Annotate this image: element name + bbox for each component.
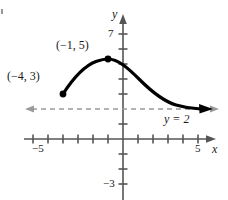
y-axis-arrow-up-icon — [119, 14, 127, 24]
x-axis — [24, 135, 216, 144]
x-axis-label: x — [212, 143, 217, 155]
y-axis-label: y — [112, 8, 117, 20]
x-tick-label-5: 5 — [195, 143, 201, 154]
point-label-minus4-3: (−4, 3) — [7, 70, 40, 82]
asymptote-arrow-left-icon — [25, 106, 34, 113]
graph-figure: (−1, 5) (−4, 3) y = 2 −5 5 7 −3 y x — [0, 0, 228, 200]
asymptote-label: y = 2 — [164, 113, 189, 125]
vertex-dot-minus1-5 — [105, 56, 112, 63]
y-axis — [119, 14, 128, 200]
curve-path — [63, 59, 201, 109]
curve-arrow-right-icon — [199, 104, 213, 114]
point-label-minus1-5: (−1, 5) — [56, 39, 89, 51]
coordinate-plane-svg — [0, 0, 228, 200]
y-tick-label-minus3: −3 — [103, 178, 115, 189]
endpoint-dot-minus4-3 — [60, 91, 67, 98]
corner-artifact-mark — [1, 9, 3, 14]
y-tick-label-7: 7 — [108, 28, 114, 39]
function-curve — [60, 56, 213, 114]
x-tick-label-minus5: −5 — [32, 143, 44, 154]
